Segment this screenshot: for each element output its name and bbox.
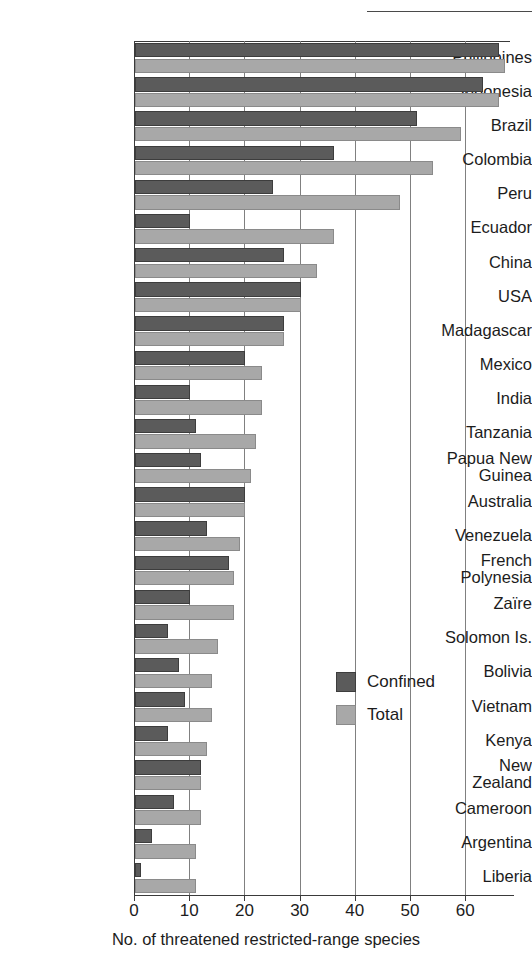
- bar-row: Mexico: [0, 348, 532, 382]
- category-label: Madagascar: [404, 322, 532, 339]
- legend-item-total: Total: [336, 705, 435, 725]
- bar-total: [135, 503, 245, 517]
- bar-confined: [135, 111, 417, 125]
- bar-confined: [135, 521, 207, 535]
- bar-row: Cameroon: [0, 793, 532, 827]
- category-label: Australia: [404, 493, 532, 510]
- x-axis-title: No. of threatened restricted-range speci…: [0, 930, 532, 949]
- bar-total: [135, 708, 212, 722]
- bar-total: [135, 434, 256, 448]
- bar-row: Australia: [0, 485, 532, 519]
- bar-total: [135, 776, 201, 790]
- category-label: Solomon Is.: [404, 629, 532, 646]
- bar-confined: [135, 692, 185, 706]
- x-tick-label-10: 10: [180, 901, 199, 921]
- bar-confined: [135, 590, 190, 604]
- bar-total: [135, 469, 251, 483]
- category-label: China: [404, 254, 532, 271]
- category-label: Liberia: [404, 868, 532, 885]
- category-label: USA: [404, 288, 532, 305]
- bar-confined: [135, 180, 273, 194]
- bar-row: China: [0, 246, 532, 280]
- legend-label-confined: Confined: [367, 672, 435, 692]
- bar-row: Vietnam: [0, 690, 532, 724]
- x-tick-label-30: 30: [290, 901, 309, 921]
- category-label: New Zealand: [404, 757, 532, 791]
- bar-confined: [135, 385, 190, 399]
- bar-total: [135, 332, 284, 346]
- bar-total: [135, 537, 240, 551]
- x-tick-label-20: 20: [235, 901, 254, 921]
- bar-confined: [135, 43, 499, 57]
- bar-total: [135, 59, 505, 73]
- bar-row: USA: [0, 280, 532, 314]
- bar-confined: [135, 248, 284, 262]
- chart-legend: Confined Total: [336, 672, 435, 738]
- category-label: Zaïre: [404, 595, 532, 612]
- legend-item-confined: Confined: [336, 672, 435, 692]
- bar-confined: [135, 795, 174, 809]
- bar-total: [135, 571, 234, 585]
- bar-row: Bolivia: [0, 656, 532, 690]
- bar-total: [135, 400, 262, 414]
- bar-row: Argentina: [0, 827, 532, 861]
- bar-row: Tanzania: [0, 417, 532, 451]
- category-label: Venezuela: [404, 527, 532, 544]
- bar-row: Venezuela: [0, 519, 532, 553]
- bar-confined: [135, 556, 229, 570]
- bar-confined: [135, 829, 152, 843]
- bar-row: Indonesia: [0, 75, 532, 109]
- bar-confined: [135, 726, 168, 740]
- plot-container: 0102030405060 PhilippinesIndonesiaBrazil…: [0, 0, 532, 971]
- bar-confined: [135, 214, 190, 228]
- bar-total: [135, 810, 201, 824]
- x-tick-label-60: 60: [456, 901, 475, 921]
- category-label: Ecuador: [404, 219, 532, 236]
- bar-row: Papua New Guinea: [0, 451, 532, 485]
- legend-label-total: Total: [367, 705, 403, 725]
- bar-row: New Zealand: [0, 758, 532, 792]
- bar-confined: [135, 419, 196, 433]
- bar-total: [135, 195, 400, 209]
- bar-row: Peru: [0, 178, 532, 212]
- bar-total: [135, 264, 317, 278]
- chart-figure: 0102030405060 PhilippinesIndonesiaBrazil…: [0, 0, 532, 971]
- bar-total: [135, 844, 196, 858]
- x-tick-label-40: 40: [345, 901, 364, 921]
- x-tick-label-50: 50: [401, 901, 420, 921]
- category-label: French Polynesia: [404, 552, 532, 586]
- bar-confined: [135, 453, 201, 467]
- category-label: India: [404, 390, 532, 407]
- legend-swatch-total-icon: [336, 705, 356, 725]
- bar-confined: [135, 316, 284, 330]
- bar-confined: [135, 487, 245, 501]
- bar-total: [135, 366, 262, 380]
- x-axis-line: [134, 895, 514, 896]
- bar-row: Liberia: [0, 861, 532, 895]
- category-label: Mexico: [404, 356, 532, 373]
- bar-confined: [135, 658, 179, 672]
- bar-row: India: [0, 383, 532, 417]
- bar-confined: [135, 146, 334, 160]
- bar-total: [135, 879, 196, 893]
- legend-swatch-confined-icon: [336, 672, 356, 692]
- bar-row: French Polynesia: [0, 553, 532, 587]
- bar-row: Madagascar: [0, 314, 532, 348]
- bar-row: Kenya: [0, 724, 532, 758]
- bar-total: [135, 605, 234, 619]
- bar-total: [135, 93, 499, 107]
- bar-row: Brazil: [0, 109, 532, 143]
- bar-total: [135, 298, 301, 312]
- bar-total: [135, 127, 461, 141]
- category-label: Argentina: [404, 834, 532, 851]
- bar-total: [135, 674, 212, 688]
- bar-row: Solomon Is.: [0, 622, 532, 656]
- bar-confined: [135, 624, 168, 638]
- bar-total: [135, 161, 433, 175]
- bar-confined: [135, 77, 483, 91]
- bar-row: Ecuador: [0, 212, 532, 246]
- bar-row: Zaïre: [0, 588, 532, 622]
- bar-total: [135, 229, 334, 243]
- bar-row: Philippines: [0, 41, 532, 75]
- x-tick-label-0: 0: [129, 901, 138, 921]
